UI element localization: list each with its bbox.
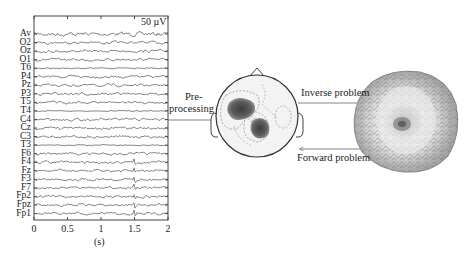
inverse-problem-label: Inverse problem <box>301 87 370 98</box>
preprocessing-label-line1: Pre- <box>185 91 203 102</box>
diagram-graphics <box>0 0 473 263</box>
preprocessing-label-line2: processing <box>169 103 214 114</box>
forward-problem-label: Forward problem <box>297 152 370 163</box>
scalp-map-head <box>211 68 303 157</box>
head-outline <box>216 75 298 157</box>
